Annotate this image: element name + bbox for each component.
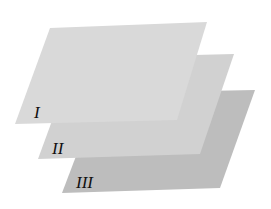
plane-i: I	[15, 22, 207, 124]
plane-ii-label: II	[51, 139, 65, 158]
plane-iii-label: III	[75, 173, 94, 192]
parallel-planes-diagram: III II I	[0, 0, 271, 209]
plane-i-surface	[15, 22, 207, 124]
